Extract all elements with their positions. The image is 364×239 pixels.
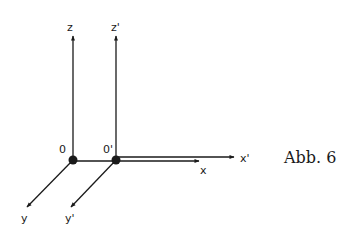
y-axis (27, 160, 73, 207)
y-label: y (21, 212, 28, 225)
figure-caption: Abb. 6 (283, 148, 336, 167)
system-unprimed (27, 36, 199, 207)
z-label: z (67, 21, 73, 34)
origin-point (69, 156, 78, 165)
x-prime-label: x' (240, 152, 250, 165)
y-prime-label: y' (65, 212, 75, 225)
system-primed (71, 36, 234, 207)
origin-label: 0 (59, 143, 66, 156)
origin-prime-point (112, 156, 121, 165)
coordinate-systems-diagram: z z' 0 0' x x' y y' Abb. 6 (0, 0, 364, 239)
origin-prime-label: 0' (103, 143, 113, 156)
y-prime-axis (71, 160, 116, 207)
x-label: x (200, 164, 207, 177)
z-prime-label: z' (111, 21, 120, 34)
